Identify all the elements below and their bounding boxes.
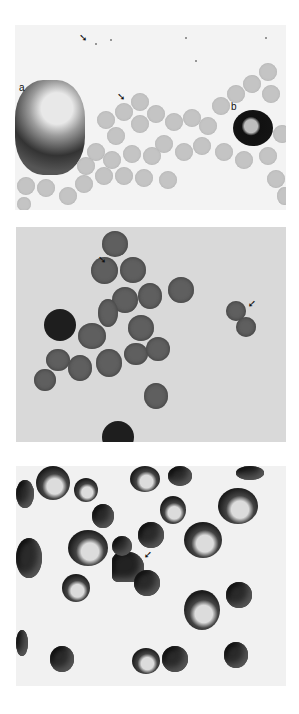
arrow-indicator: ➘: [144, 550, 152, 560]
red-blood-cell: [107, 127, 125, 145]
red-blood-cell: [36, 466, 70, 500]
red-blood-cell: [50, 646, 74, 672]
micrograph-panel-bottom: ➘: [16, 466, 286, 686]
red-blood-cell: [115, 103, 133, 121]
red-blood-cell: [59, 187, 77, 205]
dark-cell: [102, 421, 134, 442]
red-blood-cell: [16, 538, 42, 578]
particle: [95, 43, 97, 45]
red-blood-cell: [138, 283, 162, 309]
red-blood-cell: [184, 522, 222, 558]
red-blood-cell: [199, 117, 217, 135]
micrograph-panel-top: a b ➘ ➘: [15, 25, 286, 210]
red-blood-cell: [226, 582, 252, 608]
red-blood-cell: [78, 323, 106, 349]
red-blood-cell: [147, 105, 165, 123]
red-blood-cell: [74, 478, 98, 502]
red-blood-cell: [77, 157, 95, 175]
red-blood-cell: [138, 522, 164, 548]
red-blood-cell: [165, 113, 183, 131]
arrow-indicator: ➘: [98, 255, 106, 265]
cell-aggregate-a: [15, 80, 85, 175]
particle: [110, 39, 112, 41]
red-blood-cell: [259, 63, 277, 81]
red-blood-cell: [62, 574, 90, 602]
micrograph-panel-middle: ➘ ➘: [16, 227, 286, 442]
red-blood-cell: [236, 317, 256, 337]
red-blood-cell: [236, 466, 264, 480]
red-blood-cell: [175, 143, 193, 161]
particle: [185, 37, 187, 39]
red-blood-cell: [115, 167, 133, 185]
red-blood-cell: [215, 143, 233, 161]
red-blood-cell: [75, 175, 93, 193]
red-blood-cell: [17, 177, 35, 195]
particle: [195, 60, 197, 62]
red-blood-cell: [97, 111, 115, 129]
red-blood-cell: [17, 197, 31, 210]
red-blood-cell: [37, 179, 55, 197]
arrow-indicator: ➘: [117, 92, 125, 102]
red-blood-cell: [130, 466, 160, 492]
red-blood-cell: [160, 496, 186, 524]
arrow-indicator: ➘: [79, 33, 87, 43]
red-blood-cell: [120, 257, 146, 283]
red-blood-cell: [92, 504, 114, 528]
red-blood-cell: [124, 343, 148, 365]
red-blood-cell: [184, 590, 220, 630]
red-blood-cell: [46, 349, 70, 371]
red-blood-cell: [144, 383, 168, 409]
red-blood-cell: [193, 137, 211, 155]
red-blood-cell: [132, 648, 160, 674]
red-blood-cell: [218, 488, 258, 524]
red-blood-cell: [243, 75, 261, 93]
red-blood-cell: [227, 85, 245, 103]
red-blood-cell: [143, 147, 161, 165]
red-blood-cell: [68, 530, 108, 566]
red-blood-cell: [135, 169, 153, 187]
red-blood-cell: [34, 369, 56, 391]
red-blood-cell: [123, 145, 141, 163]
red-blood-cell: [235, 151, 253, 169]
red-blood-cell: [68, 355, 92, 381]
red-blood-cell: [262, 85, 280, 103]
red-blood-cell: [259, 147, 277, 165]
dark-cell: [44, 309, 76, 341]
arrow-indicator: ➘: [248, 299, 256, 309]
red-blood-cell: [168, 466, 192, 486]
red-blood-cell: [146, 337, 170, 361]
red-blood-cell: [212, 97, 230, 115]
red-blood-cell: [112, 536, 132, 556]
red-blood-cell: [162, 646, 188, 672]
red-blood-cell: [128, 315, 154, 341]
red-blood-cell: [98, 299, 118, 327]
red-blood-cell: [134, 570, 160, 596]
leukocyte-b: [233, 110, 273, 146]
red-blood-cell: [273, 125, 286, 143]
red-blood-cell: [224, 642, 248, 668]
red-blood-cell: [277, 187, 286, 205]
label-a: a: [19, 82, 25, 93]
red-blood-cell: [96, 349, 122, 377]
red-blood-cell: [168, 277, 194, 303]
red-blood-cell: [95, 167, 113, 185]
red-blood-cell: [16, 630, 28, 656]
particle: [265, 37, 267, 39]
red-blood-cell: [16, 480, 34, 508]
red-blood-cell: [159, 171, 177, 189]
red-blood-cell: [131, 115, 149, 133]
red-blood-cell: [267, 170, 285, 188]
red-blood-cell: [131, 93, 149, 111]
